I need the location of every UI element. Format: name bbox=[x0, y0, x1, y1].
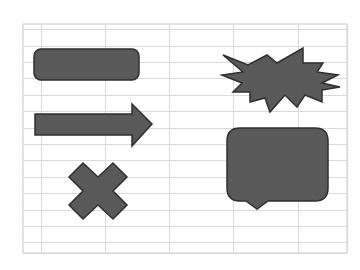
speech-bubble-shape[interactable] bbox=[227, 128, 328, 209]
spreadsheet-canvas bbox=[0, 0, 360, 270]
rounded-rectangle-shape[interactable] bbox=[34, 49, 139, 80]
